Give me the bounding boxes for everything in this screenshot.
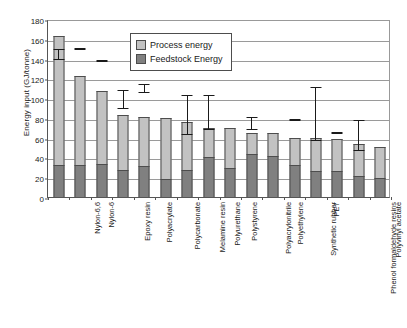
error-bar-cap-upper <box>182 95 193 96</box>
bar-segment-feedstock-energy <box>225 168 236 197</box>
y-axis-tick-label: 60 <box>35 135 44 144</box>
error-bar-cap-upper <box>310 87 321 88</box>
error-bar-slot <box>348 21 369 197</box>
error-bar <box>246 117 257 130</box>
x-axis-tick-label: Polycarbonate <box>194 202 203 249</box>
error-bar-cap-upper <box>246 117 257 118</box>
error-bar-marker <box>75 48 86 50</box>
legend-item-feedstock-energy: Feedstock Energy <box>136 52 223 66</box>
error-bar-cap-upper <box>53 49 64 50</box>
error-bar-line <box>315 87 316 140</box>
error-bar-cap-upper <box>203 95 214 96</box>
error-bar <box>310 87 321 140</box>
x-axis-tick-label: Nylon-6 <box>108 202 117 227</box>
x-axis-labels: Nylon-6,6Nylon-6Epoxy resinPolyacrylateP… <box>47 200 390 328</box>
error-bar-slot <box>48 21 69 197</box>
bar-segment-process-energy <box>160 118 171 179</box>
error-bar-slot <box>91 21 112 197</box>
error-bar-marker <box>332 132 343 134</box>
error-bar-slot <box>69 21 90 197</box>
legend-swatch-feedstock-energy <box>136 54 146 64</box>
error-bar-line <box>123 90 124 109</box>
error-bar-line <box>208 95 209 130</box>
stacked-bar <box>375 147 386 197</box>
y-axis-title: Energy input (GJ/tonne) <box>22 23 31 163</box>
bar-segment-process-energy <box>225 128 236 168</box>
error-bar-cap-upper <box>118 90 129 91</box>
bar-segment-feedstock-energy <box>160 179 171 197</box>
stacked-bar <box>160 118 171 197</box>
bar-slot <box>370 21 391 197</box>
chart-legend: Process energy Feedstock Energy <box>130 33 232 71</box>
error-bar-cap-lower <box>182 134 193 135</box>
error-bar-cap-lower <box>203 129 214 130</box>
error-bar-marker <box>96 60 107 62</box>
x-axis-tick-label: Polystyrene <box>249 202 258 241</box>
bar-segment-process-energy <box>375 147 386 179</box>
y-axis-tick-label: 0 <box>40 195 44 204</box>
error-bar-cap-lower <box>310 140 321 141</box>
error-bar-cap-upper <box>139 84 150 85</box>
error-bar-slot <box>327 21 348 197</box>
error-bar-cap-upper <box>353 120 364 121</box>
error-bar <box>53 49 64 60</box>
error-bar <box>182 95 193 135</box>
error-bar-line <box>187 95 188 135</box>
error-bar <box>353 120 364 150</box>
error-bar-line <box>358 120 359 150</box>
error-bar-slot <box>241 21 262 197</box>
error-bar-slot <box>284 21 305 197</box>
y-axis-tick-label: 80 <box>35 115 44 124</box>
x-axis-tick-label: Polyvinyl acetate <box>395 202 404 257</box>
stacked-bar <box>268 133 279 197</box>
x-axis-tick-label: Polyacrylonitrile <box>284 202 293 254</box>
legend-label-feedstock-energy: Feedstock Energy <box>150 54 223 64</box>
y-axis-tick-label: 100 <box>31 96 44 105</box>
x-axis-tick-label: Epoxy resin <box>142 202 151 241</box>
error-bar <box>75 48 86 49</box>
y-axis-tick-label: 160 <box>31 36 44 45</box>
error-bar <box>289 119 300 120</box>
y-axis-tick-label: 140 <box>31 56 44 65</box>
error-bar <box>96 60 107 61</box>
legend-swatch-process-energy <box>136 40 146 50</box>
error-bar-cap-lower <box>118 108 129 109</box>
y-axis-tick-label: 20 <box>35 175 44 184</box>
x-axis-tick-label: PET <box>332 202 341 216</box>
error-bar <box>139 84 150 93</box>
x-axis-tick-label: Polyethylene <box>296 202 305 244</box>
legend-label-process-energy: Process energy <box>150 40 213 50</box>
x-axis-tick-label: Nylon-6,6 <box>92 202 101 234</box>
legend-item-process-energy: Process energy <box>136 38 223 52</box>
y-axis-tick-label: 180 <box>31 17 44 26</box>
error-bar <box>118 90 129 109</box>
bar-segment-feedstock-energy <box>268 156 279 197</box>
error-bar-cap-lower <box>139 92 150 93</box>
error-bar-slot <box>305 21 326 197</box>
x-axis-tick-mark <box>391 197 392 200</box>
bar-segment-process-energy <box>268 133 279 156</box>
x-axis-tick-label: Melamine resin <box>218 202 227 252</box>
y-axis-tick-label: 120 <box>31 76 44 85</box>
bar-segment-feedstock-energy <box>375 178 386 197</box>
x-axis-tick-label: Polyurethane <box>233 202 242 246</box>
bar-slot <box>262 21 283 197</box>
error-bar-cap-lower <box>353 150 364 151</box>
x-axis-tick-label: Polyacrylate <box>165 202 174 242</box>
y-axis-tick-label: 40 <box>35 155 44 164</box>
error-bar-cap-lower <box>246 129 257 130</box>
energy-input-bar-chart: Energy input (GJ/tonne) 0204060801001201… <box>0 0 407 328</box>
error-bar <box>332 132 343 133</box>
error-bar-marker <box>289 119 300 121</box>
error-bar-cap-lower <box>53 59 64 60</box>
stacked-bar <box>225 128 236 197</box>
error-bar <box>203 95 214 130</box>
